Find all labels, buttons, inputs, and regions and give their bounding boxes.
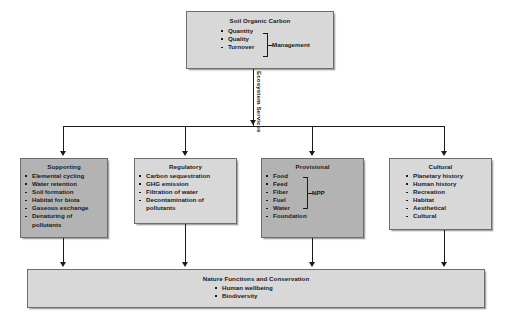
- list-item-continuation: pollutants: [135, 204, 236, 212]
- list-item: Fuel: [262, 196, 363, 204]
- diagram-canvas: Soil Organic Carbon Quantity Quality Tur…: [0, 0, 512, 319]
- regulatory-services-box: Regulatory Carbon sequestration GHG emis…: [134, 158, 237, 224]
- npp-label: NPP: [312, 189, 325, 197]
- supporting-title: Supporting: [21, 163, 107, 171]
- list-item: GHG emission: [135, 180, 236, 188]
- list-item: Water retention: [21, 180, 107, 188]
- list-item: Habitat: [402, 196, 491, 204]
- management-label: Management: [272, 41, 310, 49]
- list-item: Habitat for biota: [21, 196, 107, 204]
- branch-arrow-provisional: [309, 151, 315, 156]
- list-item: Soil formation: [21, 188, 107, 196]
- branch-line-provisional: [312, 126, 313, 153]
- list-item: Quantity: [217, 27, 333, 35]
- branch-line-cultural: [444, 126, 445, 153]
- list-item: Elemental cycling: [21, 172, 107, 180]
- provisional-services-box: Provisional Food Feed Fiber Fuel Water F…: [261, 158, 364, 238]
- cultural-services-box: Cultural Planetary history Human history…: [389, 158, 492, 230]
- nature-functions-title: Nature Functions and Conservation: [28, 275, 484, 283]
- list-item: Aesthetical: [402, 204, 491, 212]
- list-item-continuation: pollutants: [21, 221, 107, 229]
- nature-functions-box: Nature Functions and Conservation Human …: [27, 269, 485, 308]
- branch-arrow-supporting: [60, 151, 66, 156]
- outflow-line-provisional: [312, 238, 313, 264]
- list-item: Filtration of water: [135, 188, 236, 196]
- list-item: Decontamination of: [135, 196, 236, 204]
- branch-arrow-regulatory: [182, 151, 188, 156]
- supporting-services-box: Supporting Elemental cycling Water reten…: [20, 158, 108, 238]
- list-item: Human history: [402, 180, 491, 188]
- list-item: Gaseous exchange: [21, 204, 107, 212]
- list-item: Foundation: [262, 212, 363, 220]
- provisional-title: Provisional: [262, 163, 363, 171]
- distribution-bar: [63, 126, 444, 127]
- outflow-arrow-regulatory: [182, 262, 188, 267]
- soil-organic-carbon-title: Soil Organic Carbon: [187, 17, 333, 25]
- cultural-list: Planetary history Human history Recreati…: [402, 172, 491, 221]
- regulatory-title: Regulatory: [135, 163, 236, 171]
- list-item: Human wellbeing: [211, 284, 484, 292]
- list-item: Recreation: [402, 188, 491, 196]
- list-item: Food: [262, 172, 363, 180]
- branch-arrow-cultural: [441, 151, 447, 156]
- list-item: Planetary history: [402, 172, 491, 180]
- cultural-title: Cultural: [390, 163, 491, 171]
- list-item: Carbon sequestration: [135, 172, 236, 180]
- outflow-line-supporting: [63, 238, 64, 264]
- list-item: Cultural: [402, 212, 491, 220]
- ecosystem-services-label: Ecosystem Services: [256, 71, 263, 133]
- outflow-line-regulatory: [185, 224, 186, 264]
- supporting-list: Elemental cycling Water retention Soil f…: [21, 172, 107, 229]
- list-item: Biodiversity: [211, 292, 484, 300]
- branch-line-supporting: [63, 126, 64, 153]
- list-item: Feed: [262, 180, 363, 188]
- outflow-arrow-supporting: [60, 262, 66, 267]
- outflow-arrow-provisional: [309, 262, 315, 267]
- branch-line-regulatory: [185, 126, 186, 153]
- list-item: Denaturing of: [21, 212, 107, 220]
- regulatory-list: Carbon sequestration GHG emission Filtra…: [135, 172, 236, 212]
- outflow-arrow-cultural: [441, 262, 447, 267]
- soil-organic-carbon-box: Soil Organic Carbon Quantity Quality Tur…: [186, 11, 334, 69]
- ecosystem-services-connector-line: [253, 69, 254, 126]
- nature-functions-list: Human wellbeing Biodiversity: [211, 284, 484, 300]
- outflow-line-cultural: [444, 230, 445, 264]
- list-item: Water: [262, 204, 363, 212]
